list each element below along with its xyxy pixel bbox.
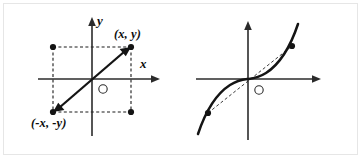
point-label-xy: (x, y) xyxy=(114,28,141,41)
corner-dot-lower-right xyxy=(128,109,134,115)
x-axis-label: x xyxy=(140,57,147,70)
y-axis-label: y xyxy=(97,14,103,27)
point-neg-xy-dot xyxy=(205,110,211,116)
point-label-neg-xy: (-x, -y) xyxy=(31,117,67,130)
figure-root: y x (x, y) (-x, -y) xyxy=(0,0,361,158)
panel-point-symmetry: y x (x, y) (-x, -y) xyxy=(0,0,181,158)
x-axis xyxy=(38,75,160,83)
point-xy-dot xyxy=(128,44,134,50)
origin-marker xyxy=(255,86,263,94)
point-xy-dot xyxy=(289,43,295,49)
panel-odd-function: y x (x, y) (-x, -y) xyxy=(180,0,361,158)
right-panel-graphic xyxy=(180,0,361,158)
point-neg-xy-dot xyxy=(50,109,56,115)
origin-marker xyxy=(99,85,107,93)
corner-dot-upper-left xyxy=(50,44,56,50)
left-panel-graphic xyxy=(0,0,181,158)
